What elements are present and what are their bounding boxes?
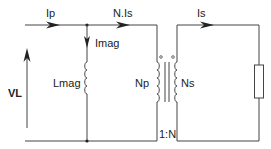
secondary-polarity-dot-icon bbox=[172, 56, 175, 59]
is-label: Is bbox=[197, 7, 206, 19]
bottom-junction-dot bbox=[85, 139, 88, 142]
turns-ratio-label: 1:N bbox=[159, 128, 176, 140]
nis-label: N.Is bbox=[113, 7, 133, 19]
lmag-inductor-icon bbox=[85, 62, 87, 94]
transformer-primary bbox=[157, 25, 162, 141]
np-label: Np bbox=[135, 77, 149, 89]
transformer-circuit-diagram: Ip N.Is Is Imag Lmag VL Np Ns 1:N bbox=[0, 0, 271, 149]
lmag-branch bbox=[84, 25, 90, 141]
ns-winding-icon bbox=[175, 62, 177, 102]
np-winding-icon bbox=[157, 62, 159, 102]
transformer-secondary bbox=[172, 25, 177, 141]
primary-polarity-dot-icon bbox=[160, 56, 163, 59]
ns-label: Ns bbox=[181, 77, 195, 89]
load-resistor-icon bbox=[255, 65, 264, 98]
vl-voltage-arrow-icon bbox=[24, 48, 31, 128]
imag-label: Imag bbox=[95, 37, 119, 49]
ip-label: Ip bbox=[46, 7, 55, 19]
transformer-core-icon bbox=[165, 62, 169, 102]
lmag-label: Lmag bbox=[53, 77, 81, 89]
vl-label: VL bbox=[8, 87, 22, 99]
